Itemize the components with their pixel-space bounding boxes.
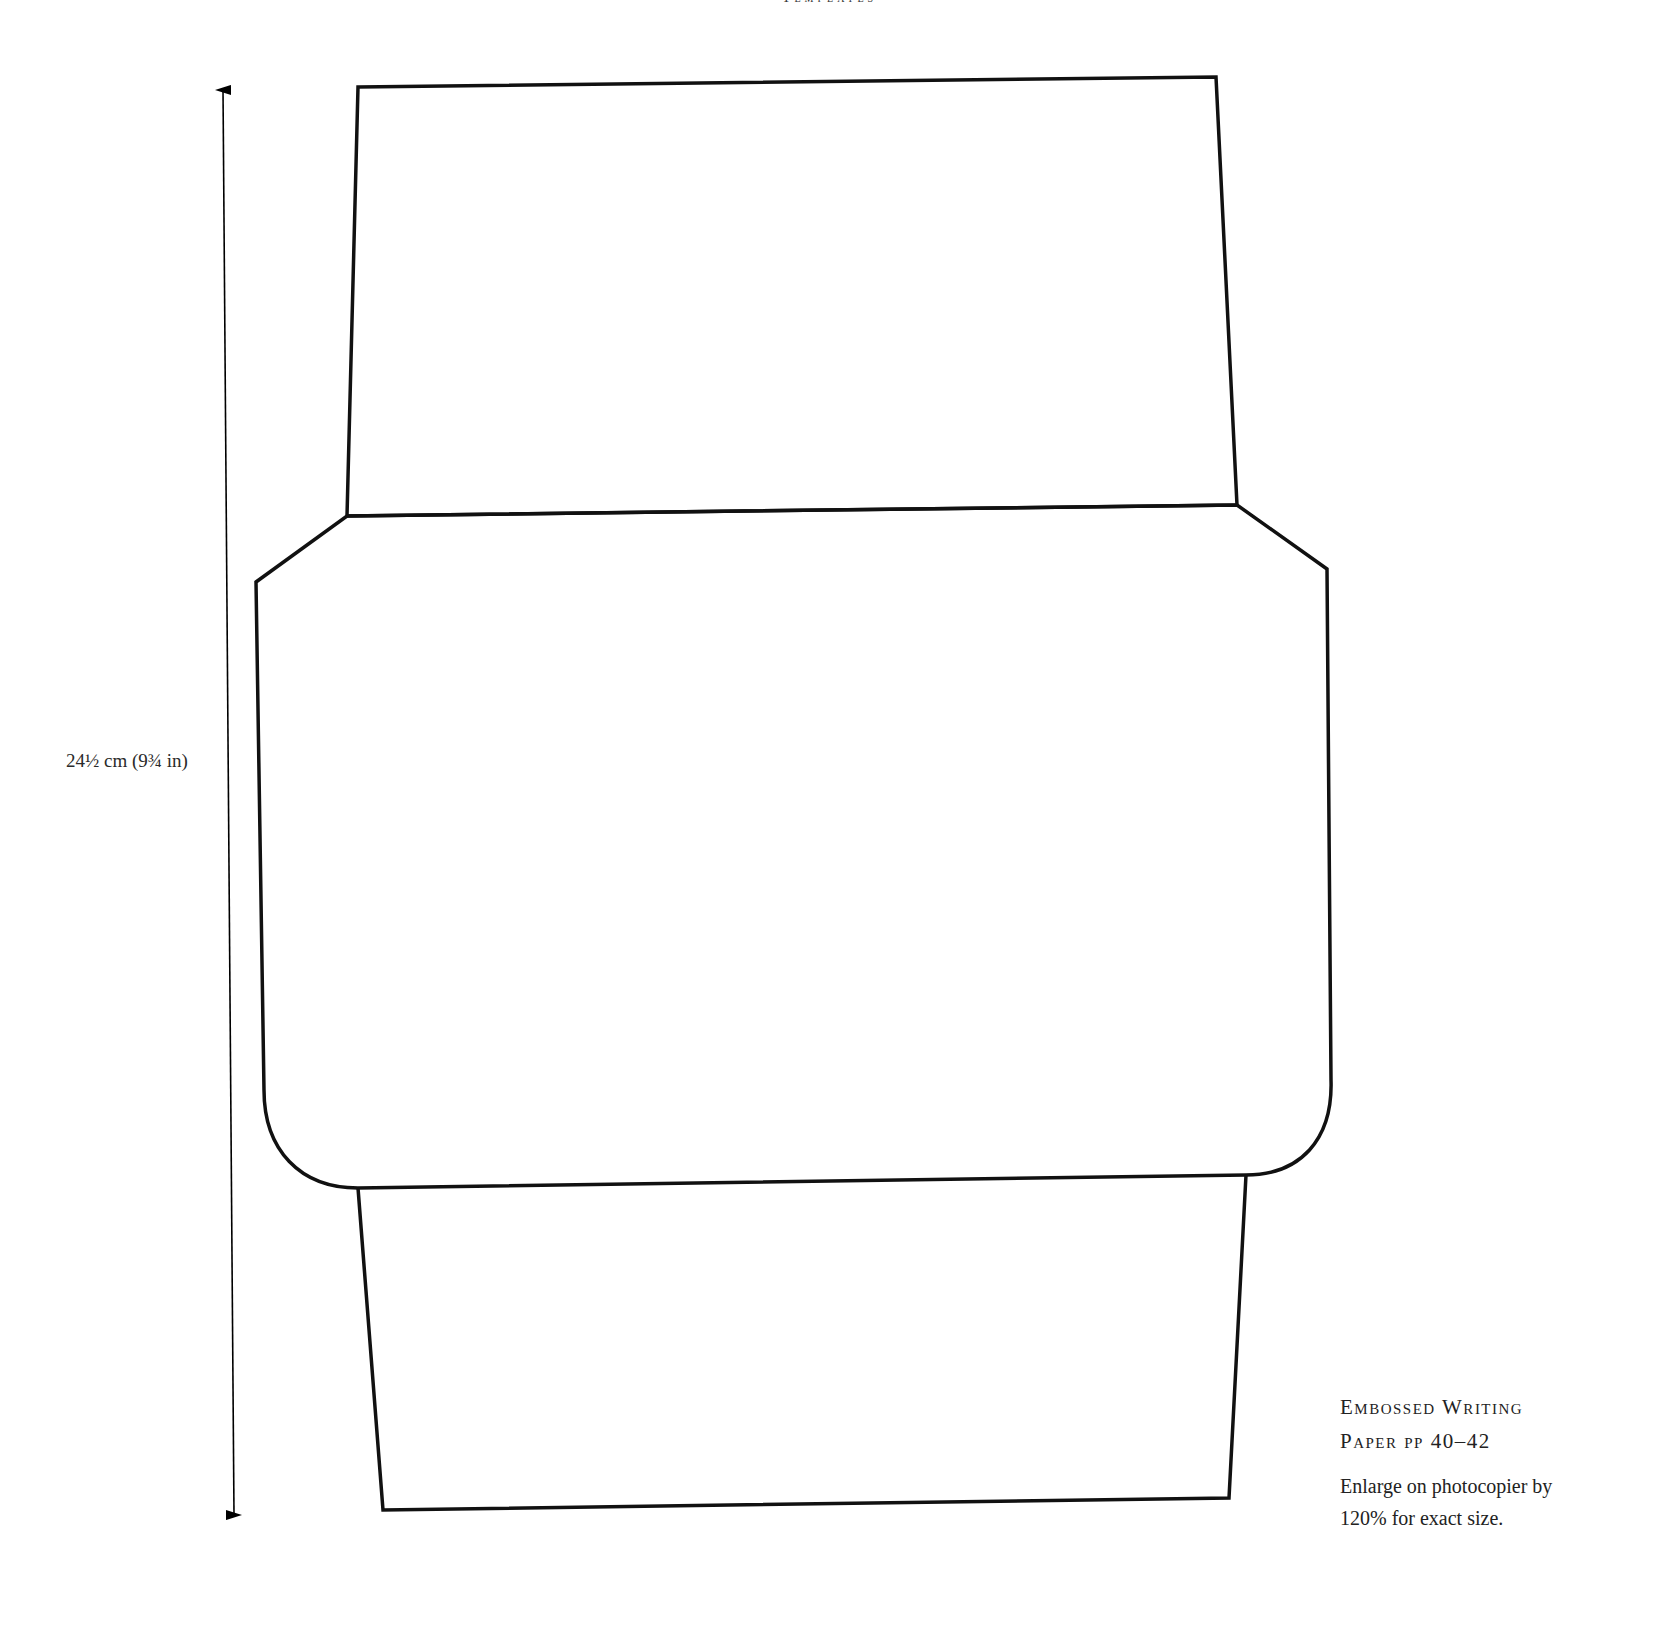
dimension-label: 24½ cm (9¾ in) [66,750,188,772]
caption-note-line1: Enlarge on photocopier by [1340,1470,1640,1502]
caption-title-line1: Embossed Writing [1340,1390,1640,1424]
dimension-arrow [223,90,234,1515]
envelope-body-outline [256,505,1331,1188]
bottom-flap-outline [358,1175,1246,1510]
template-caption: Embossed Writing Paper pp 40–42 Enlarge … [1340,1390,1640,1534]
caption-title-line2: Paper pp 40–42 [1340,1424,1640,1458]
caption-note-line2: 120% for exact size. [1340,1502,1640,1534]
caption-note: Enlarge on photocopier by 120% for exact… [1340,1470,1640,1534]
top-flap-outline [347,77,1237,516]
